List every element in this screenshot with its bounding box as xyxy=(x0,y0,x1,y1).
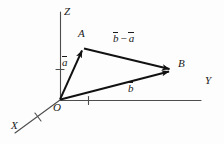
vectors-group xyxy=(60,49,170,100)
point-b-label: B xyxy=(178,58,185,69)
x-axis-label: X xyxy=(11,120,18,131)
vector-b-minus-a-label: b−a xyxy=(113,32,134,44)
origin-label: O xyxy=(53,102,61,113)
vector-b-line xyxy=(61,72,170,100)
diagram-canvas xyxy=(0,0,224,144)
point-a-label: A xyxy=(78,28,85,39)
z-axis-label: Z xyxy=(64,6,70,17)
vector-a-symbol: a xyxy=(62,56,68,68)
vector-b-minus-a-line xyxy=(84,49,170,70)
y-axis-label: Y xyxy=(205,75,211,86)
axes-group xyxy=(15,12,201,133)
vector-diagram: X Y Z O A B a b b−a xyxy=(0,0,224,144)
a-symbol: a xyxy=(129,32,135,44)
vector-b-symbol: b xyxy=(128,82,134,94)
vector-a-label: a xyxy=(62,56,68,68)
vector-b-label: b xyxy=(128,82,134,94)
b-symbol: b xyxy=(113,32,119,44)
minus-operator: − xyxy=(119,32,129,44)
